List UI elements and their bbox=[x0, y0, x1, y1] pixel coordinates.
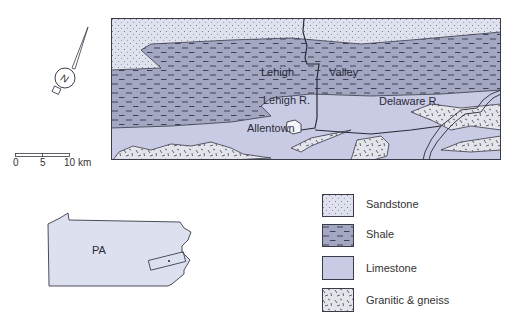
label-allentown: Allentown bbox=[247, 122, 295, 134]
label-lehigh-river: Lehigh R. bbox=[263, 94, 310, 106]
scale-tick-10: 10 km bbox=[64, 157, 91, 168]
legend: Sandstone Shale Limestone Granitic & gne… bbox=[322, 192, 512, 320]
pennsylvania-outline bbox=[48, 213, 191, 286]
compass: N bbox=[10, 20, 100, 100]
label-valley: Valley bbox=[329, 66, 359, 78]
label-delaware-river: Delaware R. bbox=[379, 95, 440, 107]
pa-inset-map: PA bbox=[46, 200, 196, 300]
legend-swatch-sandstone bbox=[322, 194, 354, 217]
legend-label-limestone: Limestone bbox=[366, 262, 417, 274]
legend-swatch-shale bbox=[322, 224, 354, 247]
legend-label-sandstone: Sandstone bbox=[366, 198, 419, 210]
scale-tick-0: 0 bbox=[13, 157, 19, 168]
legend-label-shale: Shale bbox=[366, 228, 394, 240]
legend-swatch-limestone bbox=[322, 256, 354, 280]
scale-bar: 0 5 10 km bbox=[12, 150, 102, 174]
geologic-map: Lehigh Valley Lehigh R. Delaware R. Alle… bbox=[111, 18, 501, 160]
legend-swatch-granite bbox=[322, 288, 354, 312]
label-lehigh: Lehigh bbox=[261, 66, 294, 78]
legend-label-granite: Granitic & gneiss bbox=[366, 294, 449, 306]
scale-tick-5: 5 bbox=[40, 157, 46, 168]
compass-needle-icon bbox=[72, 27, 88, 69]
inset-label: PA bbox=[92, 244, 107, 256]
